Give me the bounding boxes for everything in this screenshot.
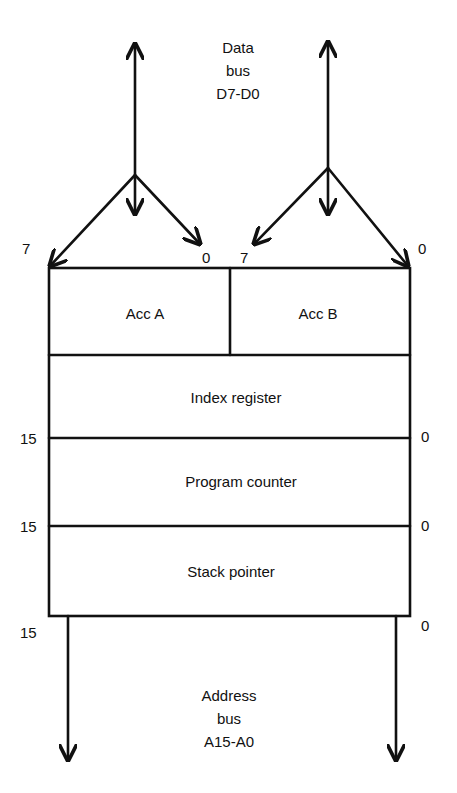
- address-bus-line3: A15-A0: [201, 730, 256, 753]
- data-bus-line1: Data: [216, 36, 259, 59]
- address-bus-label: Address bus A15-A0: [201, 684, 256, 753]
- acc-a-register: Acc A: [126, 305, 164, 322]
- data-bus-left-arrow: [50, 44, 200, 266]
- address-bus-line2: bus: [201, 707, 256, 730]
- index-msb-label: 15: [20, 430, 37, 448]
- acc-a-lsb-label: 0: [202, 249, 210, 267]
- data-bus-line3: D7-D0: [216, 82, 259, 105]
- index-register: Index register: [191, 389, 282, 406]
- sp-lsb-label: 0: [421, 617, 429, 635]
- sp-msb-label: 15: [20, 624, 37, 642]
- pc-msb-label: 15: [20, 518, 37, 536]
- program-counter-register: Program counter: [185, 473, 297, 490]
- data-bus-line2: bus: [216, 59, 259, 82]
- acc-b-lsb-label: 0: [418, 240, 426, 258]
- data-bus-right-arrow: [254, 42, 408, 266]
- acc-b-register: Acc B: [298, 305, 337, 322]
- index-lsb-label: 0: [421, 428, 429, 446]
- acc-b-msb-label: 7: [240, 249, 248, 267]
- data-bus-label: Data bus D7-D0: [216, 36, 259, 105]
- pc-lsb-label: 0: [421, 517, 429, 535]
- stack-pointer-register: Stack pointer: [187, 563, 275, 580]
- acc-a-msb-label: 7: [22, 240, 30, 258]
- address-bus-line1: Address: [201, 684, 256, 707]
